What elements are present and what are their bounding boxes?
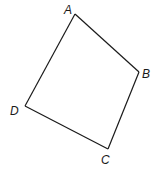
- vertex-label-d: D: [10, 104, 19, 118]
- edge-da: [25, 14, 75, 106]
- edge-bc: [108, 72, 139, 149]
- vertex-label-c: C: [101, 153, 110, 167]
- quadrilateral-diagram: A B C D: [0, 0, 158, 175]
- edge-ab: [75, 14, 139, 72]
- vertex-label-a: A: [63, 3, 72, 17]
- edge-cd: [25, 106, 108, 149]
- vertex-label-b: B: [142, 67, 150, 81]
